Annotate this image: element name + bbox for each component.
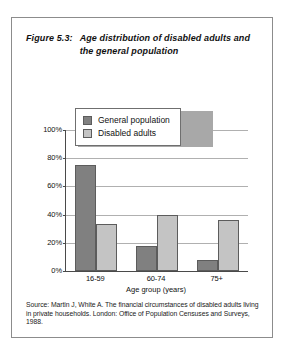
x-tick-label-16-59: 16-59	[65, 274, 126, 283]
legend-label: Disabled adults	[98, 129, 156, 138]
chart-legend: General population Disabled adults	[75, 108, 181, 146]
y-tick-label: 40%	[47, 211, 62, 219]
y-tick-label: 100%	[43, 126, 62, 134]
bar-group-60-74	[127, 130, 188, 271]
y-tick-label: 60%	[47, 183, 62, 191]
y-tick-label: 0%	[51, 267, 62, 275]
bar-shadow	[238, 224, 241, 273]
y-tick-label: 80%	[47, 154, 62, 162]
y-axis-labels: 100% 80% 60% 40% 20% 0%	[22, 130, 62, 271]
bar-general-population-60-74[interactable]	[136, 246, 157, 271]
plot-area	[65, 130, 248, 272]
bar-group-75-plus	[187, 130, 248, 271]
bar-disabled-adults-60-74[interactable]	[157, 215, 178, 271]
figure-title-row: Figure 5.3: Age distribution of disabled…	[26, 32, 262, 57]
legend-swatch-icon	[83, 129, 92, 138]
x-axis-labels: 16-59 60-74 75+	[65, 274, 247, 283]
bar-shadow	[116, 228, 119, 273]
x-axis-title: Age group (years)	[65, 285, 247, 294]
bar-shadow	[177, 219, 180, 273]
bar-disabled-adults-16-59[interactable]	[96, 224, 117, 271]
legend-item-disabled-adults[interactable]: Disabled adults	[83, 127, 170, 140]
legend-swatch-icon	[83, 116, 92, 125]
x-tick-label-75-plus: 75+	[186, 274, 247, 283]
bar-disabled-adults-75-plus[interactable]	[218, 220, 239, 271]
figure-number: Figure 5.3:	[26, 32, 73, 45]
legend-label: General population	[98, 116, 170, 125]
page-title: Age distribution of disabled adults and …	[80, 32, 262, 57]
chart-region: 100% 80% 60% 40% 20% 0%	[12, 72, 274, 290]
y-tick-label: 20%	[47, 239, 62, 247]
bar-general-population-16-59[interactable]	[75, 165, 96, 271]
source-citation: Source: Martin J, White A. The financial…	[26, 301, 260, 327]
figure-card: Figure 5.3: Age distribution of disabled…	[11, 17, 273, 338]
legend-item-general-population[interactable]: General population	[83, 114, 170, 127]
bar-general-population-75-plus[interactable]	[197, 260, 218, 271]
x-tick-label-60-74: 60-74	[126, 274, 187, 283]
bar-group-16-59	[66, 130, 127, 271]
bar-groups	[66, 130, 248, 271]
